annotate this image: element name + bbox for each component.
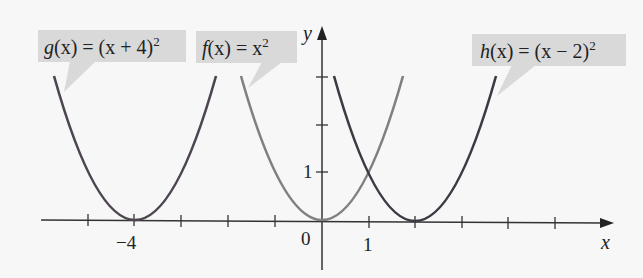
x-tick-label-1: 1 [363, 234, 373, 255]
label-f: f(x) = x2 [202, 35, 269, 60]
label-h: h(x) = (x − 2)2 [480, 38, 596, 63]
y-axis-arrow-icon [317, 26, 327, 40]
x-tick-label-neg4: −4 [116, 232, 137, 253]
x-axis-label: x [600, 231, 610, 253]
x-axis-arrow-icon [600, 218, 614, 228]
y-axis [317, 26, 327, 270]
x-tick-label-0: 0 [301, 228, 311, 249]
curve-g [54, 76, 216, 220]
y-axis-label: y [301, 22, 312, 45]
label-g: g(x) = (x + 4)2 [44, 34, 160, 59]
parabola-shift-chart: g(x) = (x + 4)2 f(x) = x2 h(x) = (x − 2)… [0, 0, 643, 278]
y-tick-label-1: 1 [303, 161, 313, 182]
curve-h [334, 76, 496, 221]
